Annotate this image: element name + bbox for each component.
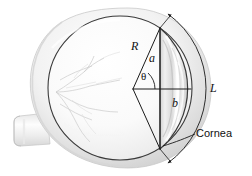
label-angle-theta: θ	[141, 71, 146, 82]
label-radius: R	[131, 40, 138, 52]
label-cornea: Cornea	[196, 128, 232, 139]
label-arc-length: L	[210, 82, 217, 94]
eye-cross-section-figure: R a θ b L Cornea	[0, 0, 252, 176]
label-depth: b	[172, 97, 178, 109]
label-half-chord: a	[149, 52, 155, 64]
